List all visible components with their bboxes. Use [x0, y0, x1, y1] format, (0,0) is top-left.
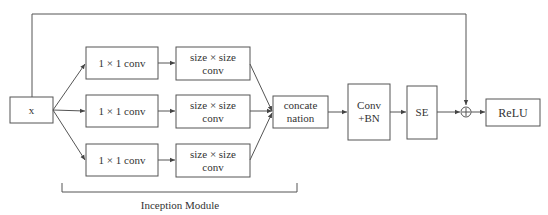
se-node: SE — [407, 86, 437, 139]
relu-label: ReLU — [498, 106, 528, 120]
branch-2-conv-label-1: size × size — [190, 99, 236, 111]
concatenation-label-1: concate — [284, 99, 318, 111]
input-node: x — [10, 97, 53, 123]
branch-1: 1 × 1 conv size × size conv — [86, 47, 250, 80]
se-label: SE — [416, 106, 429, 118]
branch-2-conv-label-2: conv — [202, 112, 224, 124]
conv-bn-label-2: +BN — [358, 112, 380, 124]
branch-2-reduce-label: 1 × 1 conv — [99, 105, 146, 117]
concatenation-node: concate nation — [273, 96, 328, 128]
conv-bn-node: Conv +BN — [348, 84, 390, 140]
branch-3-reduce-label: 1 × 1 conv — [99, 154, 146, 166]
fanin-arrow-3 — [250, 113, 272, 160]
fanout-arrow-3 — [53, 110, 85, 160]
branch-1-conv-label-2: conv — [202, 64, 224, 76]
inception-module-label: Inception Module — [141, 199, 220, 211]
relu-node: ReLU — [486, 99, 540, 126]
inception-module-bracket — [62, 183, 297, 192]
branch-1-reduce-label: 1 × 1 conv — [99, 57, 146, 69]
branch-3-conv-label-2: conv — [202, 161, 224, 173]
input-label: x — [29, 104, 35, 116]
fanout-arrow-1 — [53, 64, 85, 110]
branch-2: 1 × 1 conv size × size conv — [86, 95, 250, 128]
fanin-arrow-1 — [250, 64, 272, 111]
branch-3: 1 × 1 conv size × size conv — [86, 144, 250, 177]
add-node — [461, 107, 471, 117]
concatenation-label-2: nation — [287, 112, 315, 124]
branch-1-conv-label-1: size × size — [190, 51, 236, 63]
branch-3-conv-label-1: size × size — [190, 148, 236, 160]
fanout-arrow-2 — [53, 110, 85, 111]
inception-se-block-diagram: x 1 × 1 conv size × size conv 1 × 1 conv… — [0, 0, 548, 215]
conv-bn-label-1: Conv — [357, 99, 381, 111]
